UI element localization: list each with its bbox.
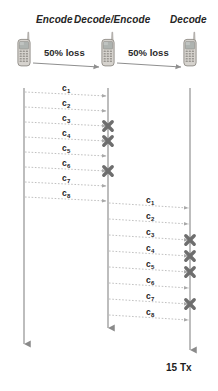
packet-label-hop2-c7: c7 [146,292,154,301]
packet-label-hop1-c6: c6 [62,159,70,168]
packet-label-index: 2 [67,103,70,109]
packet-label-index: 7 [67,178,70,184]
packet-label-hop2-c8: c8 [146,308,154,317]
phone-decode [184,32,196,66]
packet-label-index: 4 [67,133,70,139]
hop-arrow-1 [33,63,99,67]
packet-label-hop1-c2: c2 [62,99,70,108]
packet-label-index: 6 [67,163,70,169]
diagram-canvas: EncodeDecode/EncodeDecode 50% loss50% lo… [0,0,218,391]
role-label-encode: Encode [36,14,73,25]
packet-label-index: 5 [67,148,70,154]
packet-label-hop2-c6: c6 [146,276,154,285]
packet-label-index: 3 [151,232,154,238]
packet-label-index: 5 [151,264,154,270]
packet-label-hop1-c7: c7 [62,174,70,183]
packet-label-index: 7 [151,296,154,302]
packet-label-hop1-c1: c1 [62,84,70,93]
packet-label-index: 1 [151,200,154,206]
hop-arrow-2 [117,63,181,67]
role-label-decode-encode: Decode/Encode [74,14,150,25]
loss-rate-label-hop1: 50% loss [44,47,85,58]
packet-label-index: 2 [151,216,154,222]
packet-label-hop1-c5: c5 [62,144,70,153]
packet-label-hop2-c1: c1 [146,196,154,205]
loss-rate-label-hop2: 50% loss [128,47,169,58]
packet-label-index: 1 [67,88,70,94]
packet-label-index: 6 [151,280,154,286]
packet-label-index: 4 [151,248,154,254]
packet-label-hop1-c4: c4 [62,129,70,138]
packet-label-hop1-c3: c3 [62,114,70,123]
packet-label-hop2-c5: c5 [146,260,154,269]
packet-label-index: 8 [151,312,154,318]
packet-label-index: 3 [67,118,70,124]
packet-label-hop2-c4: c4 [146,244,154,253]
phone-decode-encode [102,32,114,66]
packet-label-hop2-c2: c2 [146,212,154,221]
phone-encode [18,32,30,66]
role-label-decode: Decode [170,14,207,25]
packet-label-index: 8 [67,193,70,199]
packet-label-hop1-c8: c8 [62,189,70,198]
sequence-diagram-svg [0,0,218,391]
tx-count-label: 15 Tx [166,362,192,373]
packet-label-hop2-c3: c3 [146,228,154,237]
